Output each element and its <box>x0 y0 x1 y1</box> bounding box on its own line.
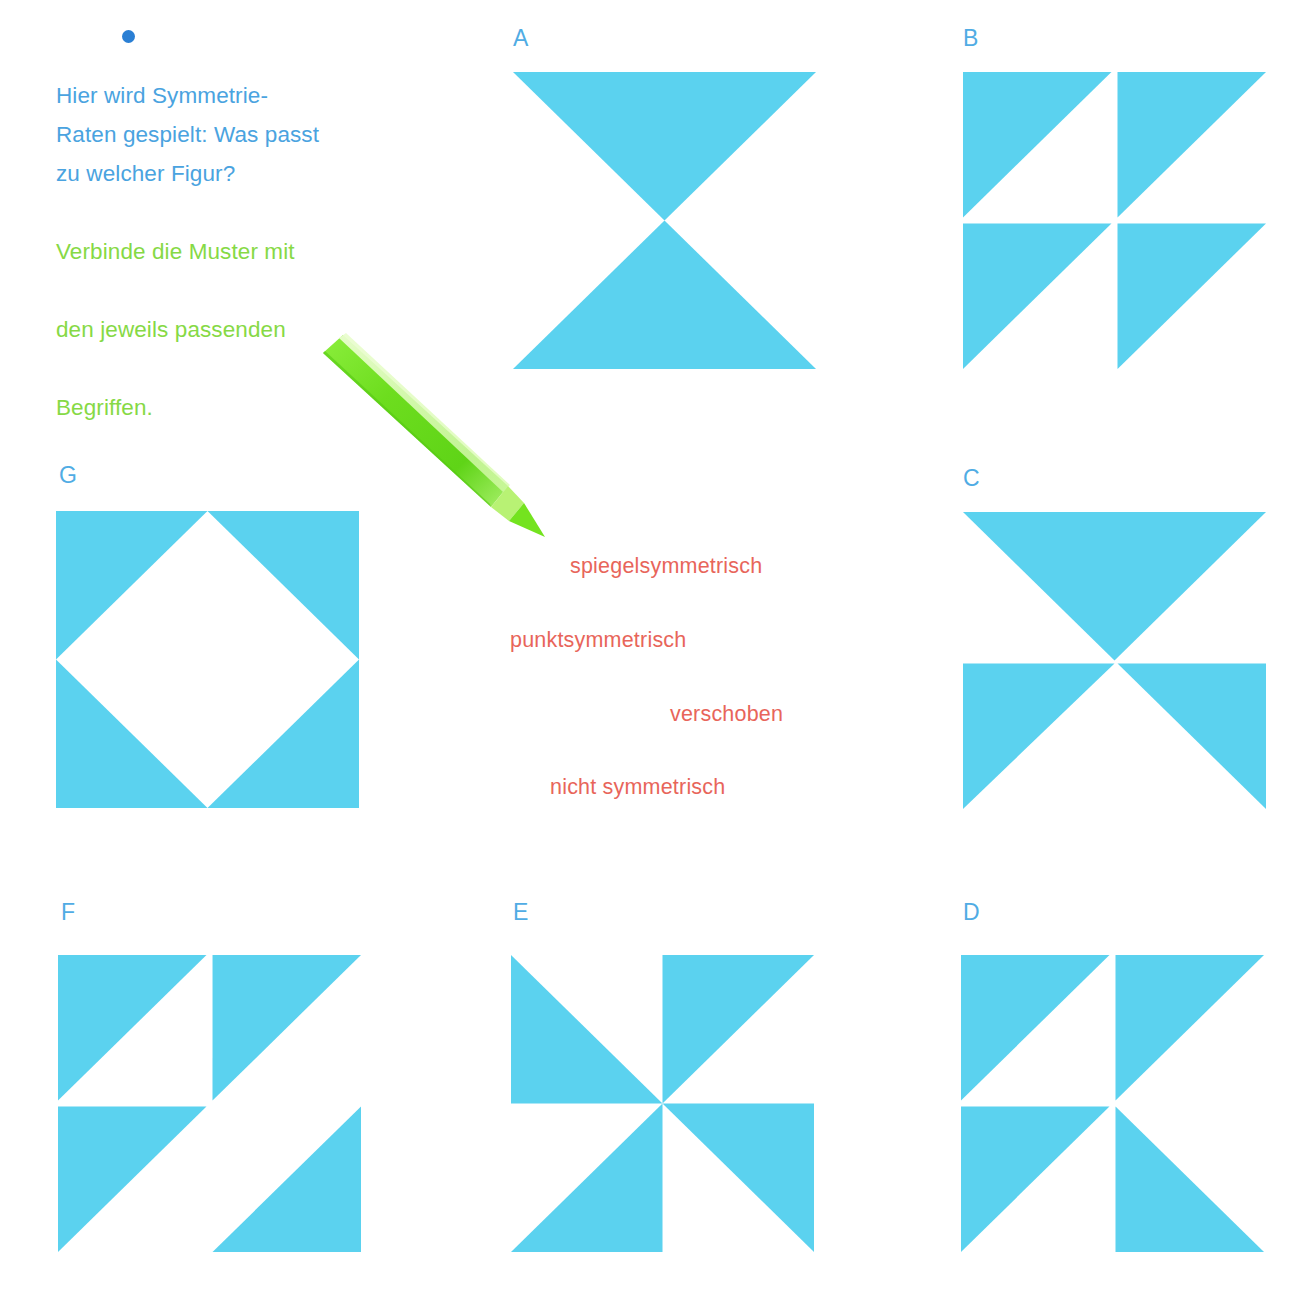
instruction-question-line-3: zu welcher Figur? <box>56 154 416 193</box>
figure-d[interactable] <box>961 955 1264 1252</box>
instruction-task-line-1: Verbinde die Muster mit <box>56 232 416 271</box>
term-verschoben[interactable]: verschoben <box>670 704 783 726</box>
figure-c[interactable] <box>963 512 1266 809</box>
instruction-question-line-2: Raten gespielt: Was passt <box>56 115 416 154</box>
term-punktsymmetrisch[interactable]: punktsymmetrisch <box>510 630 686 652</box>
figure-e[interactable] <box>511 955 814 1252</box>
instruction-question-line-1: Hier wird Symmetrie- <box>56 76 416 115</box>
figure-label-d: D <box>963 901 980 924</box>
figure-f[interactable] <box>58 955 361 1252</box>
instructions-block: Hier wird Symmetrie- Raten gespielt: Was… <box>56 76 416 427</box>
instruction-task-line-3: Begriffen. <box>56 388 416 427</box>
figure-label-g: G <box>59 464 77 487</box>
figure-label-a: A <box>513 27 529 50</box>
figure-b[interactable] <box>963 72 1266 369</box>
figure-label-b: B <box>963 27 979 50</box>
figure-label-e: E <box>513 901 529 924</box>
instruction-task-line-2: den jeweils passenden <box>56 310 416 349</box>
figure-label-c: C <box>963 467 980 490</box>
bullet-dot-icon <box>122 30 135 43</box>
term-nicht-symmetrisch[interactable]: nicht symmetrisch <box>550 777 725 799</box>
worksheet-page: Hier wird Symmetrie- Raten gespielt: Was… <box>0 0 1292 1298</box>
figure-g[interactable] <box>56 511 359 808</box>
figure-a[interactable] <box>513 72 816 369</box>
term-spiegelsymmetrisch[interactable]: spiegelsymmetrisch <box>570 556 762 578</box>
figure-label-f: F <box>61 901 75 924</box>
